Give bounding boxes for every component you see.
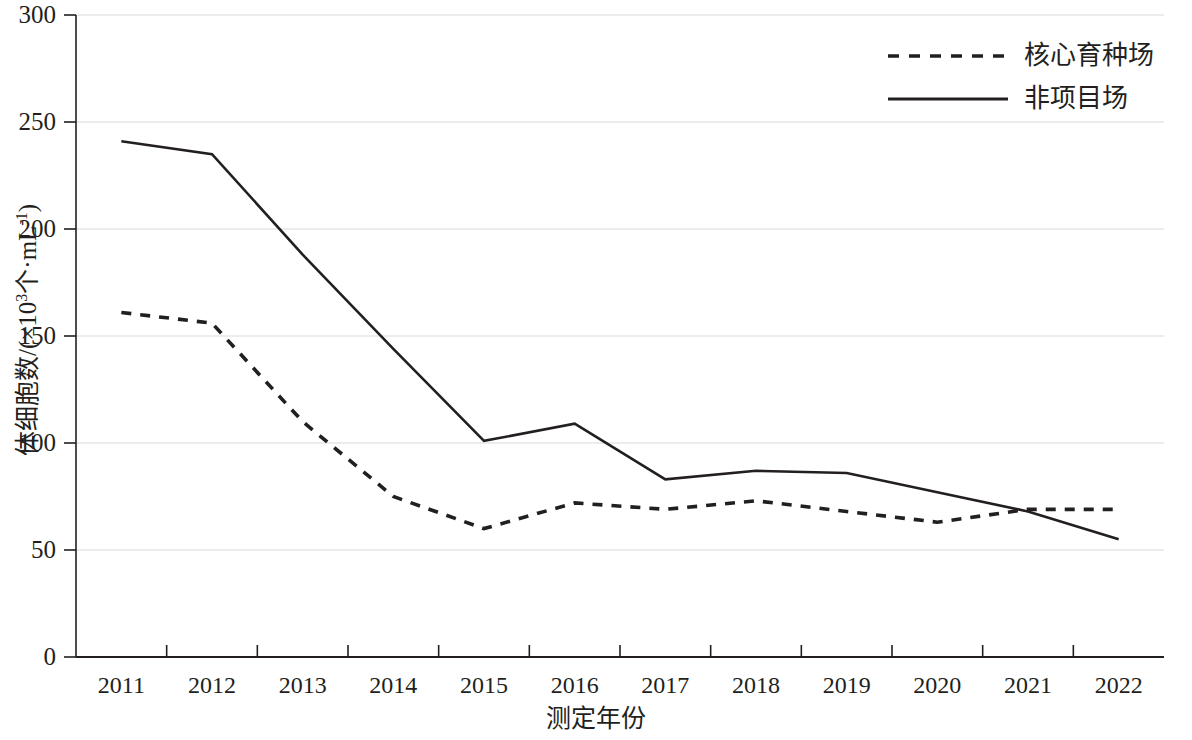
x-axis-tick-label: 2011 — [76, 673, 167, 697]
series-line-core-breeding-farm — [121, 312, 1118, 528]
y-axis-ticks — [64, 15, 76, 657]
y-axis-tick-label: 0 — [0, 644, 56, 669]
line-chart: 050100150200250300 201120122013201420152… — [0, 0, 1192, 740]
x-axis-tick-label: 2022 — [1073, 673, 1164, 697]
x-axis-tick-label: 2015 — [439, 673, 530, 697]
y-axis-title: 体细胞数/(×103个·mL-1) — [14, 120, 42, 540]
x-axis-tick-label: 2012 — [167, 673, 258, 697]
x-axis-tick-label: 2018 — [711, 673, 802, 697]
series-line-non-project-farm — [121, 141, 1118, 539]
x-axis-tick-label: 2019 — [801, 673, 892, 697]
y-axis-tick-label: 300 — [0, 2, 56, 27]
x-axis-tick-label: 2020 — [892, 673, 983, 697]
plot-area — [0, 0, 1192, 740]
gridlines — [76, 15, 1164, 550]
data-series-group — [121, 141, 1118, 539]
x-axis-ticks — [167, 645, 1074, 657]
x-axis-tick-label: 2013 — [257, 673, 348, 697]
x-axis-tick-label: 2017 — [620, 673, 711, 697]
y-axis-tick-label: 50 — [0, 537, 56, 562]
x-axis-tick-label: 2016 — [529, 673, 620, 697]
legend-label-non-project-farm: 非项目场 — [1024, 85, 1128, 113]
x-axis-tick-label: 2014 — [348, 673, 439, 697]
x-axis-title: 测定年份 — [0, 706, 1192, 732]
x-axis-tick-label: 2021 — [983, 673, 1074, 697]
legend-label-core-breeding-farm: 核心育种场 — [1024, 42, 1154, 70]
legend-sample-lines — [888, 56, 1008, 99]
